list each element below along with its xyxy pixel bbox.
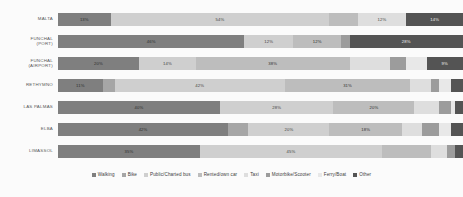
bar-segment bbox=[350, 57, 391, 70]
legend-item[interactable]: Other bbox=[353, 172, 371, 177]
legend-label: Public/Charted bus bbox=[150, 172, 191, 177]
bar-segment bbox=[406, 57, 426, 70]
bar-segment bbox=[439, 79, 451, 92]
stacked-bar: 35%45% bbox=[58, 145, 463, 158]
legend-item[interactable]: Rented/own car bbox=[198, 172, 238, 177]
bar-segment bbox=[103, 79, 115, 92]
stacked-bar: 20%14%38%9% bbox=[58, 57, 463, 70]
bar-segment: 14% bbox=[139, 57, 196, 70]
row-label: MALTA bbox=[0, 16, 58, 21]
row-label: RETHYMNO bbox=[0, 82, 58, 87]
bar-segment: 38% bbox=[196, 57, 350, 70]
segment-value-label: 9% bbox=[442, 61, 448, 66]
chart-row: FUNCHAL (PORT)46%12%12%28% bbox=[0, 30, 463, 52]
segment-value-label: 31% bbox=[343, 83, 352, 88]
legend-swatch-icon bbox=[122, 173, 126, 177]
bar-segment bbox=[329, 13, 357, 26]
chart-row: FUNCHAL (AIRPORT)20%14%38%9% bbox=[0, 52, 463, 74]
bar-segment bbox=[455, 101, 463, 114]
segment-value-label: 40% bbox=[135, 105, 144, 110]
chart-row: LIMASSOL35%45% bbox=[0, 140, 463, 162]
legend-item[interactable]: Bike bbox=[122, 172, 137, 177]
bar-segment bbox=[390, 57, 406, 70]
bar-segment: 9% bbox=[427, 57, 463, 70]
stacked-bar: 42%20%18% bbox=[58, 123, 463, 136]
legend-item[interactable]: Taxi bbox=[244, 172, 259, 177]
legend-label: Ferry/Boat bbox=[324, 172, 346, 177]
bar-segment: 42% bbox=[58, 123, 228, 136]
segment-value-label: 12% bbox=[313, 39, 322, 44]
chart-row: MALTA13%54%12%14% bbox=[0, 8, 463, 30]
legend-swatch-icon bbox=[266, 173, 270, 177]
chart-row: LAS PALMAS40%28%20% bbox=[0, 96, 463, 118]
segment-value-label: 45% bbox=[286, 149, 295, 154]
bar-segment bbox=[451, 123, 463, 136]
legend-label: Other bbox=[359, 172, 371, 177]
segment-value-label: 42% bbox=[195, 83, 204, 88]
stacked-bar: 46%12%12%28% bbox=[58, 35, 463, 48]
chart-plot-area: MALTA13%54%12%14%FUNCHAL (PORT)46%12%12%… bbox=[0, 8, 463, 166]
bar-segment: 31% bbox=[285, 79, 411, 92]
bar-segment: 12% bbox=[358, 13, 407, 26]
bar-segment bbox=[439, 101, 451, 114]
legend-item[interactable]: Motorbike/Scooter bbox=[266, 172, 311, 177]
segment-value-label: 35% bbox=[124, 149, 133, 154]
segment-value-label: 42% bbox=[139, 127, 148, 132]
bar-segment: 12% bbox=[293, 35, 342, 48]
chart-row: ELBA42%20%18% bbox=[0, 118, 463, 140]
stacked-bar: 40%28%20% bbox=[58, 101, 463, 114]
legend-swatch-icon bbox=[92, 173, 96, 177]
bar-segment: 18% bbox=[329, 123, 402, 136]
bar-segment: 20% bbox=[248, 123, 329, 136]
bar-segment bbox=[455, 145, 463, 158]
legend-swatch-icon bbox=[244, 173, 248, 177]
legend-swatch-icon bbox=[353, 173, 357, 177]
bar-segment bbox=[414, 101, 438, 114]
segment-value-label: 38% bbox=[268, 61, 277, 66]
bar-segment bbox=[451, 79, 463, 92]
chart-legend: WalkingBikePublic/Charted busRented/own … bbox=[0, 172, 463, 177]
bar-segment bbox=[447, 145, 455, 158]
segment-value-label: 20% bbox=[94, 61, 103, 66]
legend-swatch-icon bbox=[318, 173, 322, 177]
segment-value-label: 28% bbox=[402, 39, 411, 44]
segment-value-label: 20% bbox=[369, 105, 378, 110]
segment-value-label: 46% bbox=[147, 39, 156, 44]
bar-segment: 28% bbox=[220, 101, 333, 114]
chart-row: RETHYMNO11%42%31% bbox=[0, 74, 463, 96]
legend-label: Taxi bbox=[250, 172, 259, 177]
legend-item[interactable]: Walking bbox=[92, 172, 115, 177]
segment-value-label: 14% bbox=[430, 17, 439, 22]
bar-segment: 20% bbox=[58, 57, 139, 70]
bar-segment bbox=[228, 123, 248, 136]
bar-segment: 13% bbox=[58, 13, 111, 26]
row-label: FUNCHAL (PORT) bbox=[0, 36, 58, 46]
row-label: FUNCHAL (AIRPORT) bbox=[0, 58, 58, 68]
segment-value-label: 28% bbox=[272, 105, 281, 110]
bar-segment: 54% bbox=[111, 13, 330, 26]
legend-item[interactable]: Public/Charted bus bbox=[144, 172, 191, 177]
legend-label: Walking bbox=[98, 172, 115, 177]
bar-segment: 46% bbox=[58, 35, 244, 48]
segment-value-label: 13% bbox=[80, 17, 89, 22]
bar-segment bbox=[422, 123, 438, 136]
segment-value-label: 12% bbox=[378, 17, 387, 22]
row-label: LAS PALMAS bbox=[0, 104, 58, 109]
legend-label: Bike bbox=[128, 172, 137, 177]
bar-segment bbox=[431, 145, 447, 158]
bar-segment: 11% bbox=[58, 79, 103, 92]
segment-value-label: 20% bbox=[284, 127, 293, 132]
bar-segment: 40% bbox=[58, 101, 220, 114]
bar-segment bbox=[382, 145, 431, 158]
bar-segment: 42% bbox=[115, 79, 285, 92]
bar-segment bbox=[341, 35, 349, 48]
bar-segment bbox=[402, 123, 422, 136]
bar-segment: 20% bbox=[333, 101, 414, 114]
bar-segment bbox=[431, 79, 439, 92]
legend-swatch-icon bbox=[198, 173, 202, 177]
legend-swatch-icon bbox=[144, 173, 148, 177]
legend-item[interactable]: Ferry/Boat bbox=[318, 172, 346, 177]
segment-value-label: 14% bbox=[163, 61, 172, 66]
segment-value-label: 18% bbox=[361, 127, 370, 132]
legend-label: Rented/own car bbox=[204, 172, 238, 177]
